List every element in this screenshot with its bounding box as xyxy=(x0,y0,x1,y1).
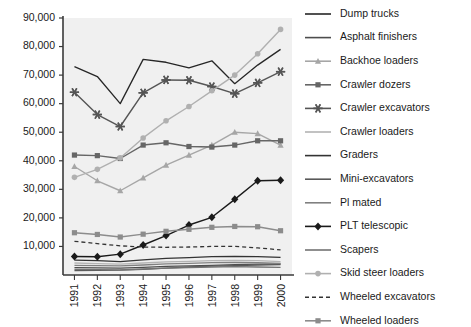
marker-square xyxy=(95,232,100,237)
y-axis-tick-label: 10,000 xyxy=(23,239,55,251)
y-axis-tick-label: 50,000 xyxy=(23,125,55,137)
marker-circle xyxy=(95,167,101,173)
y-axis-tick-label: 80,000 xyxy=(23,39,55,51)
legend-label: Crawler dozers xyxy=(340,78,411,90)
marker-circle xyxy=(117,155,123,161)
marker-circle xyxy=(209,88,215,94)
legend-label: Pl mated xyxy=(340,196,382,208)
y-axis-tick-label: 40,000 xyxy=(23,154,55,166)
marker-square xyxy=(186,227,191,232)
x-axis-tick-label: 1998 xyxy=(229,284,241,308)
legend-label: Crawler loaders xyxy=(340,125,414,137)
y-axis-tick-label: 60,000 xyxy=(23,96,55,108)
marker-circle xyxy=(255,51,261,57)
marker-square xyxy=(95,153,100,158)
x-axis-tick-label: 1992 xyxy=(91,284,103,308)
legend-label: Asphalt finishers xyxy=(340,30,417,42)
legend-label: Graders xyxy=(340,148,378,160)
y-axis-tick-label: 90,000 xyxy=(23,11,55,23)
y-axis-tick-label: 20,000 xyxy=(23,211,55,223)
x-axis-tick-label: 1995 xyxy=(160,284,172,308)
marker-square xyxy=(278,138,283,143)
marker-square xyxy=(163,229,168,234)
marker-circle xyxy=(140,135,146,141)
marker-square xyxy=(209,225,214,230)
marker-square xyxy=(141,232,146,237)
x-axis-tick-label: 1999 xyxy=(252,284,264,308)
marker-square xyxy=(209,144,214,149)
marker-square xyxy=(315,318,320,323)
legend-label: Mini-excavators xyxy=(340,172,414,184)
marker-circle xyxy=(186,104,192,110)
marker-square xyxy=(72,152,77,157)
legend-label: Crawler excavators xyxy=(340,101,430,113)
legend-label: Scapers xyxy=(340,243,379,255)
marker-square xyxy=(72,230,77,235)
marker-square xyxy=(278,228,283,233)
marker-square xyxy=(315,82,320,87)
marker-square xyxy=(232,224,237,229)
x-axis-tick-label: 1993 xyxy=(114,284,126,308)
line-chart: 10,00020,00030,00040,00050,00060,00070,0… xyxy=(0,0,471,327)
marker-square xyxy=(255,224,260,229)
x-axis-tick-label: 1997 xyxy=(206,284,218,308)
marker-square xyxy=(255,138,260,143)
marker-square xyxy=(232,142,237,147)
legend-label: Wheeled loaders xyxy=(340,314,419,326)
x-axis-tick-label: 1991 xyxy=(68,284,80,308)
marker-circle xyxy=(278,27,284,33)
legend-label: PLT telescopic xyxy=(340,219,408,231)
marker-square xyxy=(118,234,123,239)
marker-square xyxy=(186,144,191,149)
legend-label: Skid steer loaders xyxy=(340,266,424,278)
marker-circle xyxy=(163,118,169,124)
chart-container: 10,00020,00030,00040,00050,00060,00070,0… xyxy=(0,0,471,327)
marker-circle xyxy=(232,72,238,78)
marker-circle xyxy=(315,271,321,277)
legend-label: Dump trucks xyxy=(340,7,399,19)
legend-label: Backhoe loaders xyxy=(340,54,418,66)
marker-circle xyxy=(72,175,78,181)
marker-square xyxy=(141,142,146,147)
legend-label: Wheeled excavators xyxy=(340,290,435,302)
x-axis-tick-label: 1996 xyxy=(183,284,195,308)
marker-square xyxy=(163,140,168,145)
y-axis-tick-label: 70,000 xyxy=(23,68,55,80)
x-axis-tick-label: 1994 xyxy=(137,284,149,308)
x-axis-tick-label: 2000 xyxy=(275,284,287,308)
y-axis-tick-label: 30,000 xyxy=(23,182,55,194)
